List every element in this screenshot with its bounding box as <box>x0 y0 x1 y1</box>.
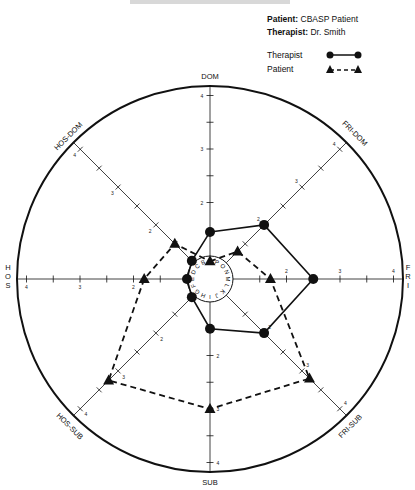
tick-label: 4 <box>73 152 76 158</box>
triangle-marker-icon <box>265 273 276 283</box>
circle-marker-icon <box>205 227 215 237</box>
axis-label-hos: H <box>5 263 10 272</box>
axis-label-dom: DOM <box>201 72 219 81</box>
axis-line <box>210 143 346 279</box>
tick-label: 3 <box>306 362 309 368</box>
tick-label: 3 <box>79 284 82 290</box>
circle-marker-icon <box>308 274 318 284</box>
tick-label: 3 <box>111 190 114 196</box>
axis-label-sub: SUB <box>202 478 217 487</box>
data-series <box>103 220 318 413</box>
circle-marker-icon <box>205 324 215 334</box>
tick-label: 3 <box>122 374 125 380</box>
tick-label: 4 <box>201 93 204 99</box>
circle-marker-icon <box>259 328 269 338</box>
tick-label: 4 <box>333 141 336 147</box>
tick-label: 3 <box>201 146 204 152</box>
tick-label: 2 <box>217 353 220 359</box>
axis-label-hos: S <box>5 281 10 290</box>
tick-label: 4 <box>344 400 347 406</box>
axis-label-hos-sub: HOS-SUB <box>55 411 86 442</box>
tick-label: 2 <box>132 284 135 290</box>
tick-label: 4 <box>85 411 88 417</box>
triangle-marker-icon <box>205 403 216 413</box>
tick-label: 2 <box>149 228 152 234</box>
circle-marker-icon <box>259 220 269 230</box>
axis-label-fri-sub: FRI-SUB <box>336 412 364 440</box>
tick-label: 4 <box>217 460 220 466</box>
triangle-marker-icon <box>232 245 243 255</box>
tick-label: 4 <box>392 268 395 274</box>
tick-label: 3 <box>295 178 298 184</box>
radar-chart: 234234234234234234234234 APONMLKJIHGFEDC… <box>0 0 415 490</box>
axis-label-fri: I <box>407 281 409 290</box>
axis-label-hos: O <box>5 272 11 281</box>
circle-marker-icon <box>182 274 192 284</box>
triangle-marker-icon <box>304 372 315 382</box>
triangle-marker-icon <box>169 238 180 248</box>
tick-label: 4 <box>25 284 28 290</box>
circle-marker-icon <box>187 292 197 302</box>
triangle-marker-icon <box>103 374 114 384</box>
axis-label-fri: F <box>406 263 411 272</box>
tick-label: 2 <box>257 216 260 222</box>
circle-marker-icon <box>187 256 197 266</box>
axis-label-fri: R <box>405 272 411 281</box>
tick-label: 2 <box>201 200 204 206</box>
tick-label: 3 <box>339 268 342 274</box>
axis-label-fri-dom: FRI-DOM <box>340 119 369 148</box>
tick-label: 2 <box>285 268 288 274</box>
tick-label: 2 <box>160 336 163 342</box>
ring-letter: M <box>225 277 231 282</box>
